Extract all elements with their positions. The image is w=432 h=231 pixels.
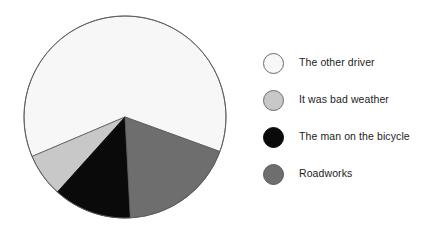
- pie-chart-figure: The other driver It was bad weather The …: [0, 0, 432, 231]
- white-circle-icon: [263, 53, 284, 74]
- black-circle-icon: [263, 127, 284, 148]
- legend-item-label: Roadworks: [299, 168, 352, 180]
- pie-chart-plot-area: [0, 0, 250, 231]
- legend-item-the-man-on-the-bicycle[interactable]: The man on the bicycle: [263, 124, 410, 150]
- dark-gray-circle-icon: [263, 164, 284, 185]
- legend-item-label: The man on the bicycle: [299, 131, 410, 143]
- legend-item-label: It was bad weather: [299, 94, 389, 106]
- legend-item-label: The other driver: [299, 57, 375, 69]
- legend-item-roadworks[interactable]: Roadworks: [263, 161, 352, 187]
- light-gray-circle-icon: [263, 90, 284, 111]
- legend-item-the-other-driver[interactable]: The other driver: [263, 50, 375, 76]
- legend: The other driver It was bad weather The …: [263, 44, 432, 194]
- pie-slices: [24, 16, 226, 218]
- legend-item-it-was-bad-weather[interactable]: It was bad weather: [263, 87, 389, 113]
- pie-chart-svg: [0, 0, 250, 231]
